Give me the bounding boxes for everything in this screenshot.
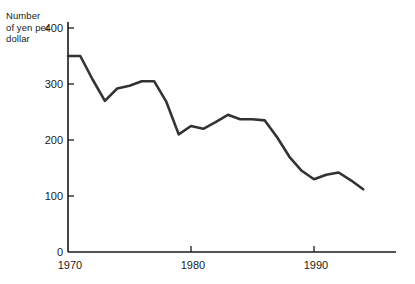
x-tick-label: 1970 <box>58 259 82 271</box>
y-tick-label: 300 <box>45 78 63 90</box>
line-chart-plot: 0100200300400 197019801990 <box>0 0 415 284</box>
x-tick-label: 1990 <box>304 259 328 271</box>
data-series-line <box>68 56 363 189</box>
y-tick-label: 200 <box>45 134 63 146</box>
x-axis-ticks <box>191 246 314 252</box>
y-axis-ticks <box>68 28 74 196</box>
x-axis-tick-labels: 197019801990 <box>58 259 328 271</box>
y-axis-tick-labels: 0100200300400 <box>45 22 63 258</box>
y-tick-label: 100 <box>45 190 63 202</box>
y-tick-label: 400 <box>45 22 63 34</box>
chart-container: Number of yen per dollar 0100200300400 1… <box>0 0 415 284</box>
x-tick-label: 1980 <box>181 259 205 271</box>
y-tick-label: 0 <box>57 246 63 258</box>
